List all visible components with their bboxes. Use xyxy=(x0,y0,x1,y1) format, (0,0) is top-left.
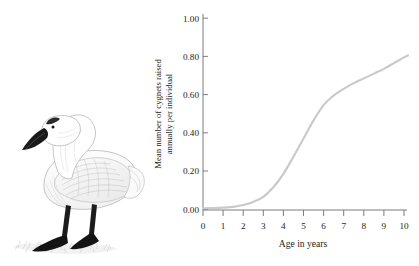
y-tick-label: 0.00 xyxy=(183,205,199,215)
x-axis-title: Age in years xyxy=(279,238,328,249)
x-tick-label: 0 xyxy=(201,221,206,231)
x-axis-tick-labels: 0 1 2 3 4 5 6 7 8 9 10 xyxy=(201,221,409,231)
x-tick-label: 3 xyxy=(261,221,266,231)
y-tick-label: 0.80 xyxy=(183,52,199,62)
x-tick-label: 4 xyxy=(281,221,286,231)
y-tick-label: 0.40 xyxy=(183,128,199,138)
x-axis-ticks xyxy=(203,210,404,216)
x-tick-label: 9 xyxy=(382,221,387,231)
x-tick-label: 2 xyxy=(241,221,246,231)
swan-legs xyxy=(32,204,99,252)
y-axis-title: Mean number of cygnets raised annually p… xyxy=(153,59,174,169)
x-tick-label: 7 xyxy=(341,221,346,231)
x-tick-label: 1 xyxy=(221,221,226,231)
figure-root: 1.00 0.80 0.60 0.40 0.20 0.00 xyxy=(0,0,419,266)
data-series-line xyxy=(203,55,408,208)
x-tick-label: 6 xyxy=(321,221,326,231)
y-tick-label: 0.60 xyxy=(183,90,199,100)
x-tick-label: 8 xyxy=(362,221,367,231)
y-axis-ticks xyxy=(203,18,208,209)
x-tick-label: 5 xyxy=(301,221,306,231)
line-chart: 1.00 0.80 0.60 0.40 0.20 0.00 xyxy=(145,0,419,266)
y-axis-tick-labels: 1.00 0.80 0.60 0.40 0.20 0.00 xyxy=(183,14,199,215)
x-tick-label: 10 xyxy=(399,221,409,231)
y-tick-label: 0.20 xyxy=(183,166,199,176)
y-axis-title-line2: annually per individual xyxy=(164,73,174,154)
chart-axes xyxy=(203,14,407,210)
y-axis-title-line1: Mean number of cygnets raised xyxy=(153,59,163,169)
swan-illustration xyxy=(0,0,145,266)
y-tick-label: 1.00 xyxy=(183,14,199,24)
